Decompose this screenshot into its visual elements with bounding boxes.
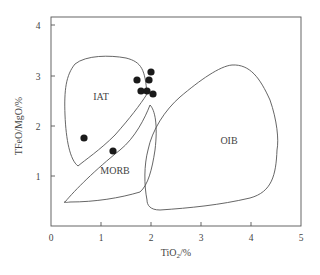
y-tick-4: 4	[36, 21, 41, 31]
y-axis-label: TFeO/MgO/%	[13, 97, 24, 155]
x-tick-3: 3	[199, 233, 204, 243]
x-tick-2: 2	[149, 233, 154, 243]
data-point	[133, 76, 140, 83]
x-tick-0: 0	[49, 233, 54, 243]
iat-field-boundary	[65, 56, 147, 166]
x-axis	[101, 222, 251, 226]
y-tick-2: 2	[36, 122, 41, 132]
data-point	[145, 76, 152, 83]
data-point	[109, 147, 116, 154]
iat-label: IAT	[93, 91, 109, 102]
data-point	[80, 134, 87, 141]
y-tick-1: 1	[36, 172, 41, 182]
tio2-vs-tfeo-mgo-diagram: 0 1 2 3 4 5 1 2 3 4 TiO2/% TFeO/MgO/% IA…	[0, 0, 320, 275]
oib-field-boundary	[145, 65, 278, 210]
data-point	[147, 68, 154, 75]
y-axis	[51, 25, 55, 176]
x-tick-1: 1	[99, 233, 104, 243]
x-tick-4: 4	[249, 233, 254, 243]
x-tick-5: 5	[299, 233, 304, 243]
plot-frame	[51, 17, 301, 226]
oib-label: OIB	[220, 135, 238, 146]
morb-field-boundary	[64, 105, 156, 202]
y-tick-3: 3	[36, 72, 41, 82]
data-point	[149, 90, 156, 97]
x-axis-label: TiO2/%	[161, 247, 191, 260]
morb-label: MORB	[100, 165, 130, 176]
